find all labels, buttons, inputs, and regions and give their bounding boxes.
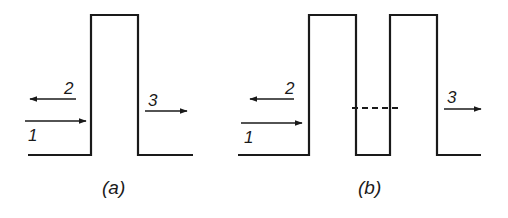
label-reflected-b: 2 [284, 79, 295, 98]
barrier-profile-a [28, 15, 193, 155]
label-incident-b: 1 [244, 128, 253, 147]
double-barrier-profile-b [238, 15, 481, 155]
diagram-canvas: 2 1 3 (a) 2 1 3 (b) [0, 0, 508, 218]
label-transmitted-a: 3 [148, 91, 158, 110]
label-transmitted-b: 3 [447, 88, 457, 107]
caption-a: (a) [102, 177, 125, 198]
caption-b: (b) [358, 177, 381, 198]
panel-a: 2 1 3 (a) [25, 15, 193, 198]
panel-b: 2 1 3 (b) [238, 15, 481, 198]
label-reflected-a: 2 [63, 79, 74, 98]
label-incident-a: 1 [28, 126, 37, 145]
